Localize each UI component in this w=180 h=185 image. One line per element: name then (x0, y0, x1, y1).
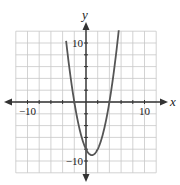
x-axis-right-arrow-icon (160, 99, 168, 106)
x-axis-left-arrow-icon (4, 99, 12, 106)
y-tick-label-10: 10 (72, 37, 84, 49)
parabola-chart: x y −10 10 10 −10 (0, 0, 180, 185)
y-tick-label-neg10: −10 (66, 155, 84, 167)
y-axis-up-arrow-icon (83, 22, 90, 30)
y-axis-down-arrow-icon (83, 174, 90, 182)
axes (4, 22, 168, 182)
x-tick-label-neg10: −10 (19, 105, 37, 117)
x-axis-label: x (169, 94, 176, 109)
x-tick-label-10: 10 (139, 105, 151, 117)
y-axis-label: y (80, 7, 88, 22)
